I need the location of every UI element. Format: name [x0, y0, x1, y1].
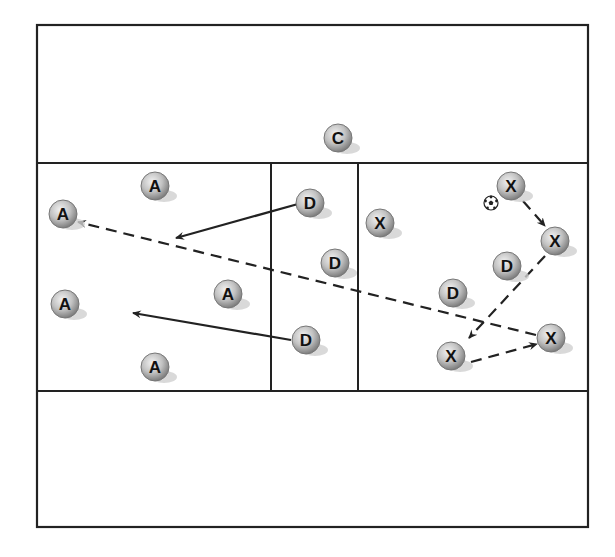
player-d5: D: [493, 252, 529, 282]
player-x3: X: [541, 227, 577, 257]
player-d4: D: [439, 279, 475, 309]
player-label: D: [501, 257, 513, 276]
player-label: A: [57, 205, 69, 224]
player-a5: A: [141, 353, 177, 383]
player-label: A: [59, 295, 71, 314]
player-x4: X: [537, 324, 573, 354]
player-a2: A: [49, 200, 85, 230]
player-label: D: [304, 194, 316, 213]
player-label: X: [445, 347, 457, 366]
player-label: C: [332, 129, 344, 148]
run-arrow-run-d3: [133, 313, 291, 340]
player-label: D: [329, 254, 341, 273]
pass-arrow-pass-x5-x4: [471, 344, 537, 362]
player-d1: D: [296, 189, 332, 219]
player-label: A: [149, 358, 161, 377]
player-x1: X: [366, 209, 402, 239]
run-arrow-run-d1: [176, 204, 298, 238]
player-label: A: [222, 285, 234, 304]
player-c1: C: [324, 124, 360, 154]
player-a3: A: [214, 280, 250, 310]
player-label: A: [149, 177, 161, 196]
soccer-ball-icon: [484, 196, 498, 210]
player-x2: X: [497, 172, 533, 202]
pass-arrow-pass-x2-x3: [523, 201, 545, 226]
player-a1: A: [141, 172, 177, 202]
drill-diagram: CAAAAADDDDDXXXXX: [0, 0, 615, 557]
player-label: X: [549, 232, 561, 251]
player-a4: A: [51, 290, 87, 320]
player-label: X: [545, 329, 557, 348]
player-d2: D: [321, 249, 357, 279]
pass-arrow-pass-x4-a2: [78, 222, 536, 335]
player-label: X: [505, 177, 517, 196]
player-x5: X: [437, 342, 473, 372]
player-label: D: [447, 284, 459, 303]
player-label: X: [374, 214, 386, 233]
player-d3: D: [292, 326, 328, 356]
player-label: D: [300, 331, 312, 350]
